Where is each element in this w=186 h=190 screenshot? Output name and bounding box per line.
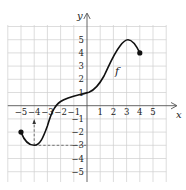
up-arrow-icon: [32, 119, 36, 124]
right-endpoint: [137, 50, 142, 55]
y-axis: [84, 13, 90, 182]
x-tick: 4: [137, 107, 142, 117]
left-endpoint: [18, 130, 23, 135]
x-tick: 1: [97, 107, 102, 117]
x-tick: −4: [28, 107, 41, 117]
x-tick-labels: −5 −4 −3 −2 −1 1 2 3 4 5: [15, 107, 156, 117]
y-tick: −2: [71, 127, 84, 137]
y-axis-label: y: [76, 10, 83, 21]
x-tick: 2: [111, 107, 116, 117]
x-axis-label: x: [176, 109, 182, 120]
y-tick: 5: [79, 35, 84, 45]
y-tick: 3: [79, 61, 84, 71]
y-tick: −4: [71, 154, 84, 164]
y-tick: −5: [71, 167, 84, 177]
y-tick: 4: [79, 48, 84, 58]
x-tick: 3: [124, 107, 129, 117]
function-graph: x y −5 −4 −3 −2 −1 1 2 3 4 5 1 2 3 4 5 −…: [0, 0, 186, 190]
y-tick: −3: [71, 140, 84, 150]
x-tick: −2: [54, 107, 67, 117]
function-label: f: [114, 65, 121, 78]
y-tick: −1: [71, 114, 84, 124]
y-tick: 1: [79, 88, 84, 98]
x-tick: −5: [15, 107, 28, 117]
y-tick: 2: [79, 74, 84, 84]
x-tick: 5: [150, 107, 155, 117]
